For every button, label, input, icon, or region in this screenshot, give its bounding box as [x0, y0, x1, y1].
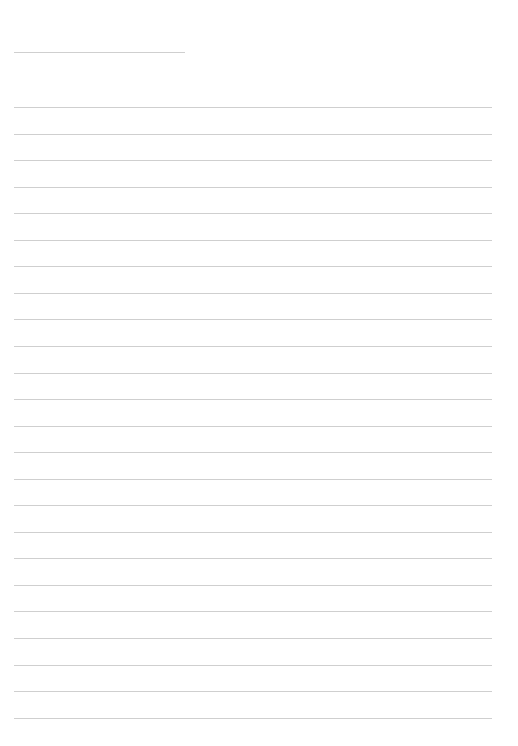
ruled-line — [14, 134, 492, 135]
ruled-line — [14, 346, 492, 347]
ruled-line — [14, 585, 492, 586]
ruled-line — [14, 452, 492, 453]
ruled-line — [14, 426, 492, 427]
ruled-line — [14, 665, 492, 666]
ruled-line — [14, 160, 492, 161]
ruled-line — [14, 638, 492, 639]
ruled-line — [14, 691, 492, 692]
ruled-line — [14, 373, 492, 374]
ruled-line — [14, 213, 492, 214]
header-line — [14, 52, 185, 53]
ruled-line — [14, 107, 492, 108]
ruled-line — [14, 399, 492, 400]
ruled-line — [14, 532, 492, 533]
ruled-line — [14, 319, 492, 320]
ruled-line — [14, 266, 492, 267]
ruled-line — [14, 505, 492, 506]
ruled-line — [14, 240, 492, 241]
ruled-line — [14, 187, 492, 188]
ruled-line — [14, 293, 492, 294]
ruled-line — [14, 479, 492, 480]
ruled-line — [14, 558, 492, 559]
ruled-line — [14, 611, 492, 612]
ruled-line — [14, 718, 492, 719]
